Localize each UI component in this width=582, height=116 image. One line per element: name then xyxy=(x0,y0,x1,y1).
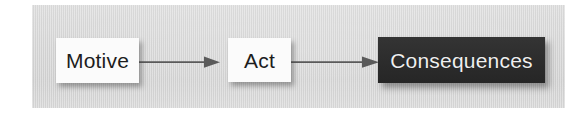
diagram-canvas: Motive Act Consequences xyxy=(0,0,582,116)
arrow-motive-to-act xyxy=(138,54,220,70)
arrow-act-to-consequences-icon xyxy=(290,54,380,70)
node-act-label: Act xyxy=(244,50,275,71)
arrow-act-to-consequences xyxy=(290,54,380,70)
arrow-motive-to-act-icon xyxy=(138,54,220,70)
node-motive-label: Motive xyxy=(66,50,129,71)
node-act[interactable]: Act xyxy=(228,38,291,82)
node-consequences[interactable]: Consequences xyxy=(378,37,545,83)
node-motive[interactable]: Motive xyxy=(56,38,139,83)
node-consequences-label: Consequences xyxy=(390,50,533,71)
